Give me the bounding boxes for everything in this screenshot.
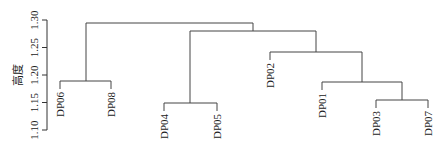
leaf-label-dp06: DP06 (54, 92, 66, 118)
branch-dp03-dp07 (376, 100, 428, 108)
y-tick-label: 1.15 (28, 92, 40, 112)
y-axis: 1.10 1.15 1.20 1.25 1.30 高度 (11, 10, 47, 140)
branch-dp01-cluster (322, 82, 402, 100)
leaf-label-dp02: DP02 (264, 63, 276, 88)
y-tick-label: 1.30 (28, 10, 40, 30)
y-tick-label: 1.20 (28, 65, 40, 85)
dendrogram-chart: 1.10 1.15 1.20 1.25 1.30 高度 DP06 DP08 DP… (0, 0, 447, 157)
y-tick-label: 1.10 (28, 120, 40, 140)
leaf-label-dp05: DP05 (211, 114, 223, 140)
branch-right-cluster (190, 31, 316, 103)
branch-dp06-dp08 (60, 81, 111, 89)
branch-root (86, 23, 253, 81)
leaf-label-dp07: DP07 (422, 111, 434, 137)
leaf-label-dp04: DP04 (158, 114, 170, 140)
leaf-labels: DP06 DP08 DP04 DP05 DP02 DP01 DP03 DP07 (54, 63, 434, 139)
leaf-label-dp08: DP08 (105, 92, 117, 118)
y-axis-title: 高度 (11, 64, 24, 86)
leaf-label-dp01: DP01 (316, 93, 328, 118)
branch-dp04-dp05 (164, 103, 217, 111)
y-tick-label: 1.25 (28, 37, 40, 57)
leaf-label-dp03: DP03 (370, 111, 382, 137)
branch-dp02-cluster (270, 52, 362, 82)
